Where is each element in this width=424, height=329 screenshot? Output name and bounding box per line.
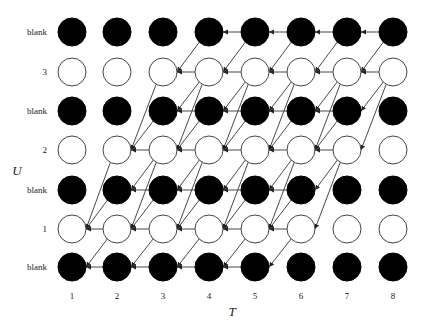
- column-tick-label: 1: [70, 291, 75, 301]
- blank-state-node: [241, 253, 269, 281]
- blank-state-node: [58, 253, 86, 281]
- column-tick-label: 7: [345, 291, 350, 301]
- blank-state-node: [103, 97, 131, 125]
- column-tick-label: 4: [207, 291, 212, 301]
- label-state-node: [149, 58, 177, 86]
- label-state-node: [287, 215, 315, 243]
- row-label: blank: [27, 106, 47, 116]
- blank-state-node: [241, 97, 269, 125]
- label-state-node: [241, 136, 269, 164]
- column-tick-labels: 12345678: [70, 291, 396, 301]
- label-state-node: [103, 136, 131, 164]
- blank-state-node: [287, 18, 315, 46]
- blank-state-node: [287, 253, 315, 281]
- blank-state-node: [149, 18, 177, 46]
- blank-state-node: [149, 253, 177, 281]
- blank-state-node: [333, 176, 361, 204]
- blank-state-node: [58, 176, 86, 204]
- label-state-node: [287, 136, 315, 164]
- label-state-node: [241, 215, 269, 243]
- blank-state-node: [195, 176, 223, 204]
- label-state-node: [379, 58, 407, 86]
- column-tick-label: 3: [161, 291, 166, 301]
- blank-state-node: [103, 176, 131, 204]
- row-label: blank: [27, 27, 47, 37]
- label-state-node: [103, 58, 131, 86]
- row-label: 3: [43, 67, 48, 77]
- row-label: blank: [27, 185, 47, 195]
- row-labels: blank3blank2blank1blank: [27, 27, 48, 272]
- row-label: 1: [43, 224, 48, 234]
- blank-state-node: [333, 253, 361, 281]
- blank-state-node: [287, 97, 315, 125]
- blank-state-node: [58, 97, 86, 125]
- label-state-node: [195, 58, 223, 86]
- label-state-node: [379, 215, 407, 243]
- label-state-node: [58, 215, 86, 243]
- blank-state-node: [333, 97, 361, 125]
- x-axis-label: T: [228, 304, 236, 319]
- label-state-node: [287, 58, 315, 86]
- label-state-node: [333, 136, 361, 164]
- blank-state-node: [149, 176, 177, 204]
- label-state-node: [58, 136, 86, 164]
- column-tick-label: 8: [391, 291, 396, 301]
- row-label: blank: [27, 262, 47, 272]
- blank-state-node: [287, 176, 315, 204]
- column-tick-label: 5: [253, 291, 258, 301]
- label-state-node: [195, 136, 223, 164]
- label-state-node: [149, 136, 177, 164]
- blank-state-node: [195, 253, 223, 281]
- label-state-node: [195, 215, 223, 243]
- label-state-node: [149, 215, 177, 243]
- blank-state-node: [195, 97, 223, 125]
- blank-state-node: [379, 18, 407, 46]
- blank-state-node: [333, 18, 361, 46]
- blank-state-node: [241, 18, 269, 46]
- label-state-node: [379, 136, 407, 164]
- column-tick-label: 2: [115, 291, 120, 301]
- blank-state-node: [103, 18, 131, 46]
- blank-state-node: [149, 97, 177, 125]
- label-state-node: [241, 58, 269, 86]
- blank-state-node: [379, 176, 407, 204]
- label-state-node: [333, 58, 361, 86]
- blank-state-node: [195, 18, 223, 46]
- column-tick-label: 6: [299, 291, 304, 301]
- blank-state-node: [241, 176, 269, 204]
- label-state-node: [333, 215, 361, 243]
- blank-state-node: [103, 253, 131, 281]
- ctc-trellis-diagram: blank3blank2blank1blank 12345678 T U: [0, 0, 424, 329]
- y-axis-label: U: [12, 163, 23, 178]
- blank-state-node: [379, 97, 407, 125]
- row-label: 2: [43, 145, 48, 155]
- nodes-layer: [58, 18, 407, 281]
- label-state-node: [58, 58, 86, 86]
- blank-state-node: [58, 18, 86, 46]
- blank-state-node: [379, 253, 407, 281]
- label-state-node: [103, 215, 131, 243]
